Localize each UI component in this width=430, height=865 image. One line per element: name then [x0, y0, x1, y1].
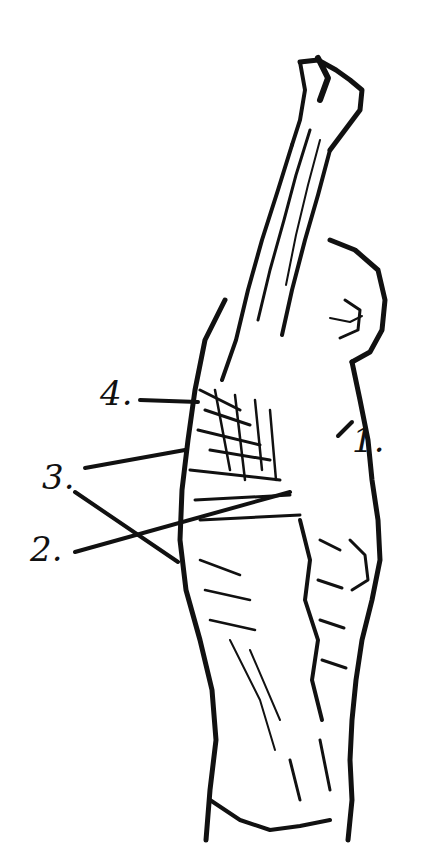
label-4: 4.	[100, 376, 132, 410]
label-2: 2.	[30, 532, 62, 566]
label-1: 1.	[352, 423, 384, 457]
label-3: 3.	[42, 460, 74, 494]
